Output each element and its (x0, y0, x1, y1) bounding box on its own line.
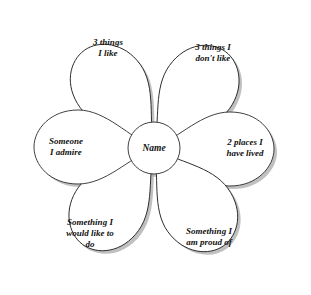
flower-diagram: 3 things I like 3 things I don't like 2 … (0, 0, 311, 295)
flower-svg (0, 0, 311, 295)
center-circle[interactable] (128, 122, 180, 174)
